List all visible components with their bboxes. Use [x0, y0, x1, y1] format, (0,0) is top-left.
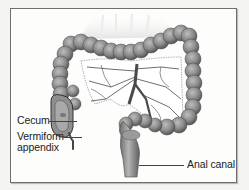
leader-line-anal-canal: [139, 165, 184, 166]
label-appendix-line2: appendix: [17, 142, 59, 153]
large-intestine-illustration: [11, 9, 236, 182]
appendix-shape: [69, 133, 73, 149]
leader-line-appendix: [64, 137, 82, 138]
label-cecum: Cecum: [17, 115, 50, 126]
label-anal-canal: Anal canal: [187, 159, 235, 170]
leader-line-cecum: [49, 121, 77, 122]
rectum-shape: [119, 121, 140, 177]
figure-frame: Cecum Vermiform appendix Anal canal: [10, 8, 237, 183]
